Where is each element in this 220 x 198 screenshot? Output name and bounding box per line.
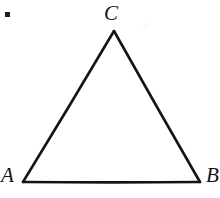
vertex-label-a: A [1,165,14,186]
triangle-edge-cb [114,31,200,182]
triangle-edge-ac [23,31,114,182]
vertex-label-c: C [104,3,118,24]
triangle-drawing [0,0,220,198]
triangle-figure: C A B [0,0,220,198]
vertex-label-b: B [206,165,219,186]
